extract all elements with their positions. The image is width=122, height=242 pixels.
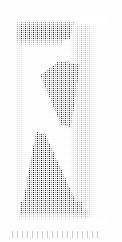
halftone-image-panel [14,17,108,225]
glyph-bottom-band-fade [18,210,89,220]
dark-glyph [14,17,108,225]
figure-title [0,0,1,1]
glyph-upper-wedge-stroke [40,61,79,128]
glyph-top-bar-stroke [16,21,74,40]
figure-caption [0,0,1,1]
glyph-lower-triangle-stroke [19,131,77,210]
scanned-figure [0,0,122,242]
caption-speckle-strip [12,231,98,238]
glyph-top-bar-shadow [16,39,63,47]
